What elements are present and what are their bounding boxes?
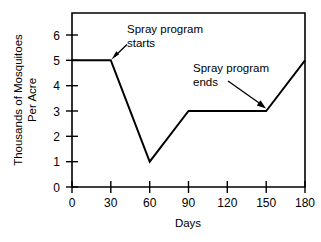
annotation-spray-start-line2: starts bbox=[127, 37, 155, 49]
x-tick-label-0: 0 bbox=[69, 196, 76, 210]
y-tick-label-1: 1 bbox=[53, 155, 60, 169]
annotation-spray-end-line2: ends bbox=[193, 76, 218, 88]
y-tick-label-3: 3 bbox=[53, 105, 60, 119]
x-tick-label-120: 120 bbox=[217, 196, 237, 210]
x-tick-label-60: 60 bbox=[143, 196, 157, 210]
y-tick-label-2: 2 bbox=[53, 130, 60, 144]
x-axis-title: Days bbox=[175, 217, 201, 229]
annotation-spray-start-line1: Spray program bbox=[127, 23, 203, 35]
x-tick-label-150: 150 bbox=[256, 196, 276, 210]
mosquito-population-chart: 0 1 2 3 4 5 6 0 30 60 90 120 150 180 Day… bbox=[0, 0, 321, 242]
x-tick-label-180: 180 bbox=[295, 196, 315, 210]
y-axis-title-line2: Per Acre bbox=[26, 78, 38, 122]
y-tick-label-4: 4 bbox=[53, 79, 60, 93]
x-tick-label-30: 30 bbox=[104, 196, 118, 210]
y-tick-label-6: 6 bbox=[53, 29, 60, 43]
y-tick-label-0: 0 bbox=[53, 181, 60, 195]
y-axis-title-line1: Thousands of Mosquitoes bbox=[12, 34, 24, 166]
y-tick-label-5: 5 bbox=[53, 54, 60, 68]
chart-canvas: 0 1 2 3 4 5 6 0 30 60 90 120 150 180 Day… bbox=[0, 0, 321, 242]
x-tick-label-90: 90 bbox=[182, 196, 196, 210]
annotation-spray-end-line1: Spray program bbox=[193, 62, 269, 74]
